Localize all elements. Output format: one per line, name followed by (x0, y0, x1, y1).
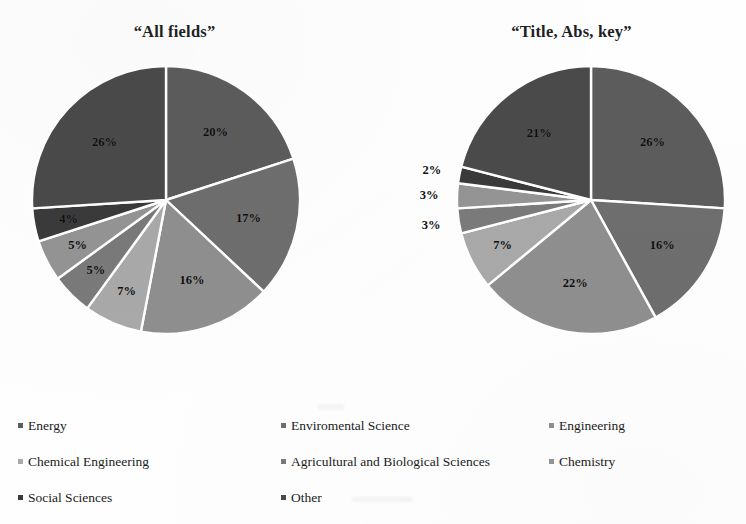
pie-slice-label: 2% (423, 162, 442, 177)
pie-slice-label: 20% (203, 124, 228, 139)
legend-swatch-icon (549, 423, 554, 428)
legend-label: Chemical Engineering (28, 454, 149, 470)
pie-slice-label: 7% (117, 284, 136, 299)
legend-swatch-icon (281, 495, 286, 500)
legend-label: Chemistry (559, 454, 615, 470)
legend-swatch-icon (281, 423, 286, 428)
pie-slice-label: 21% (527, 126, 552, 141)
legend: EnergyEnviromental ScienceEngineeringChe… (0, 404, 746, 524)
legend-label: Enviromental Science (291, 418, 410, 434)
pie-slice-label: 16% (180, 273, 205, 288)
legend-swatch-icon (281, 459, 286, 464)
pie-slice-label: 16% (650, 238, 675, 253)
legend-label: Engineering (559, 418, 625, 434)
chart-panel-title-abs-key: “Title, Abs, key” 26%16%22%7%3%3%2%21% (373, 0, 746, 390)
pie-slice-label: 3% (422, 218, 441, 233)
pie-chart-figure: “All fields” 20%17%16%7%5%5%4%26% “Title… (0, 0, 746, 524)
legend-item[interactable]: Other (281, 490, 322, 506)
legend-item[interactable]: Enviromental Science (281, 418, 410, 434)
legend-item[interactable]: Agricultural and Biological Sciences (281, 454, 490, 470)
pie-slice-label: 5% (68, 238, 87, 253)
pie-slice-label: 5% (87, 263, 106, 278)
pie-slice-label: 17% (236, 211, 261, 226)
chart-title-title-abs-key: “Title, Abs, key” (385, 22, 746, 42)
pie-slice-label: 26% (640, 135, 665, 150)
pie-chart-title-abs-key: 26%16%22%7%3%3%2%21% (455, 64, 727, 336)
pie-slice-label: 26% (92, 135, 117, 150)
pie-slices-title-abs-key (455, 64, 727, 336)
legend-label: Social Sciences (28, 490, 112, 506)
legend-swatch-icon (549, 459, 554, 464)
pie-chart-all-fields: 20%17%16%7%5%5%4%26% (30, 64, 302, 336)
legend-item[interactable]: Engineering (549, 418, 625, 434)
legend-label: Energy (28, 418, 67, 434)
pie-slice-label: 4% (59, 211, 78, 226)
pie-slice-label: 7% (493, 238, 512, 253)
pie-slices-all-fields (30, 64, 302, 336)
legend-item[interactable]: Chemistry (549, 454, 615, 470)
legend-label: Other (291, 490, 322, 506)
legend-item[interactable]: Chemical Engineering (18, 454, 149, 470)
pie-slice-label: 22% (563, 275, 588, 290)
legend-item[interactable]: Energy (18, 418, 67, 434)
chart-title-all-fields: “All fields” (0, 22, 361, 42)
legend-item[interactable]: Social Sciences (18, 490, 112, 506)
pie-slice-label: 3% (420, 187, 439, 202)
legend-label: Agricultural and Biological Sciences (291, 454, 490, 470)
chart-panel-all-fields: “All fields” 20%17%16%7%5%5%4%26% (0, 0, 373, 390)
legend-swatch-icon (18, 459, 23, 464)
legend-swatch-icon (18, 423, 23, 428)
legend-swatch-icon (18, 495, 23, 500)
